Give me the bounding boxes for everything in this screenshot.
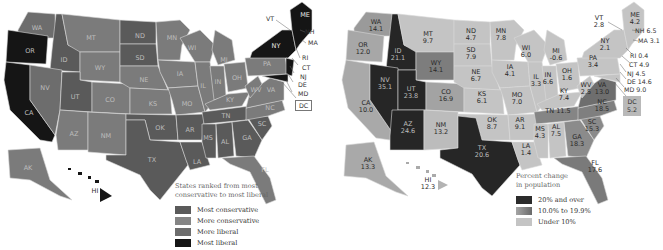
state-label-oh: OH1.6 [562,68,572,82]
state-label-ms: MS4.3 [535,126,545,140]
state-label-nd: ND4.7 [466,28,476,42]
state-label-tx: TX [148,157,156,164]
callout-nh: NH 6.5 [635,27,656,34]
population-change-map: WA14.1 OR12.0 CA10.0 ID21.1 NV35.1 MT9.7… [330,0,663,250]
callout-ri: RI [302,54,308,61]
state-label-or: OR12.0 [356,42,370,56]
state-label-mi: MI-0.6 [550,48,563,62]
state-label-ne: NE6.7 [471,69,481,83]
state-label-al: AL7.5 [551,124,561,138]
state-ak [8,148,72,200]
state-label-in: IN6.6 [543,72,553,86]
state-label-ak: AK13.3 [361,157,375,171]
state-label-oh: OH [232,75,242,82]
state-hi [438,180,448,190]
callout-md: MD [298,90,308,97]
state-label-ar: AR9.1 [515,117,525,131]
state-label-al: AL [221,139,229,146]
state-label-mo: MO [182,101,193,108]
state-label-or: OR [25,48,35,55]
state-label-wi: WI6.0 [521,45,531,59]
population-legend: Percent change in population 20% and ove… [516,172,591,227]
state-label-nv: NV35.1 [378,77,392,91]
state-label-wy: WY14.1 [429,60,443,74]
state-label-co: CO16.9 [439,89,453,103]
legend-swatch [516,207,532,215]
callout-ri: RI 0.4 [630,52,648,59]
state-label-va: VA13.0 [595,82,609,96]
state-hi [100,188,112,202]
state-label-tx: TX20.6 [475,145,489,159]
legend-item-under-10: Under 10% [516,216,591,227]
callout-nj: NJ [300,73,307,80]
state-label-nc: NC [265,105,274,112]
state-label-hi: HI [92,188,99,195]
legend-item-most-liberal: Most liberal [175,237,268,248]
ideology-map: WA OR CA ID NV MT WY UT CO AZ NM ND SD N… [0,0,330,250]
state-label-id: ID [61,57,68,64]
state-label-ca: CA [25,110,34,117]
ideology-legend-title-1: States ranked from most [175,182,268,191]
state-label-tn: TN [222,113,231,120]
state-label-ak: AK [24,165,33,172]
callout-nj: NJ 4.5 [627,70,646,77]
legend-swatch [175,217,191,225]
state-label-wy: WY [95,65,105,72]
state-label-az: AZ [70,131,79,138]
state-label-ar: AR [186,127,195,134]
state-label-ut: UT [71,94,80,101]
state-label-wv: WV [251,87,262,94]
state-label-il: IL3.3 [531,74,541,88]
state-label-hi: HI12.3 [421,177,435,191]
callout-de: DE [298,81,307,88]
state-label-ky: KY7.4 [559,88,569,102]
state-label-mt: MT [86,35,96,42]
ideology-map-shapes [0,0,330,250]
state-label-nm: NM13.2 [434,122,448,136]
state-label-ok: OK [155,125,164,132]
state-label-ny: NY2.1 [600,38,610,52]
legend-item-more-liberal: More liberal [175,226,268,237]
legend-item-more-conservative: More conservative [175,215,268,226]
state-label-wa: WA [32,25,43,32]
state-label-ca: CA10.0 [359,100,373,114]
state-label-tn: TN 11.5 [545,108,570,115]
state-label-sd: SD [135,55,144,62]
state-label-in: IN [215,79,222,86]
callout-ct: CT [302,64,310,71]
state-label-mt: MT9.7 [423,31,433,45]
state-label-sc: SC [258,121,267,128]
state-label-ms: MS [203,135,213,142]
population-legend-title-1: Percent change [516,172,591,181]
state-label-vt: VT2.8 [594,15,604,29]
state-label-nm: NM [101,133,111,140]
state-label-me: ME [300,12,310,19]
callout-nh: NH [305,28,314,35]
legend-swatch [516,196,532,204]
callout-dc: DC [295,100,312,111]
state-label-mn: MN7.8 [496,28,506,42]
state-label-nc: NC18.5 [595,99,609,113]
state-label-mi: MI [220,57,228,64]
state-label-me: ME4.2 [630,12,640,26]
callout-de: DE 14.6 [627,78,652,85]
legend-item-most-conservative: Most conservative [175,204,268,215]
state-label-sc: SC15.3 [585,119,599,133]
legend-item-20-and-over: 20% and over [516,194,591,205]
state-label-ga: GA18.3 [570,134,584,148]
state-pa [577,56,620,76]
state-label-il: IL [200,83,206,90]
state-label-ny: NY [272,43,281,50]
callout-vt: VT [266,15,274,22]
state-label-la: LA [193,159,201,166]
legend-swatch [516,218,532,226]
state-label-pa: PA [263,61,271,68]
callout-md: MD 9.0 [624,86,646,93]
state-label-az: AZ24.6 [401,121,415,135]
state-label-id: ID21.1 [391,48,405,62]
state-label-ia: IA4.1 [505,64,515,78]
state-label-ks: KS [149,101,157,108]
legend-swatch [175,239,191,247]
state-label-nv: NV [40,85,49,92]
state-label-wa: WA14.1 [369,19,383,33]
